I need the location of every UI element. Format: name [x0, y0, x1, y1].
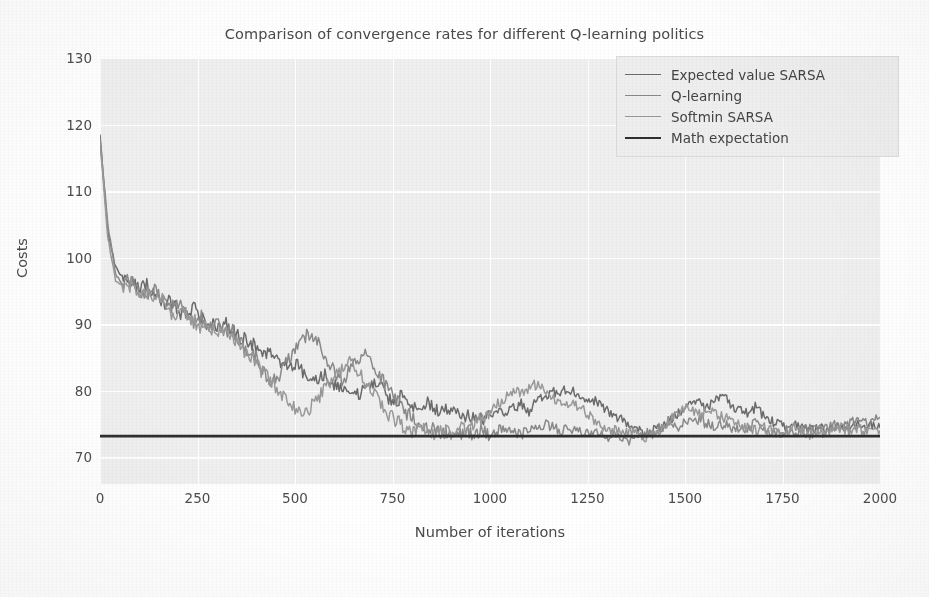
x-tick-label: 500 — [260, 490, 330, 506]
x-tick-label: 1000 — [455, 490, 525, 506]
x-tick-label: 2000 — [845, 490, 915, 506]
legend-line-swatch — [625, 74, 661, 75]
y-tick-label: 130 — [6, 50, 92, 66]
y-tick-label: 80 — [6, 383, 92, 399]
x-tick-label: 0 — [65, 490, 135, 506]
chart-title: Comparison of convergence rates for diff… — [0, 26, 929, 42]
x-tick-label: 750 — [358, 490, 428, 506]
series-line — [100, 138, 880, 445]
legend-item[interactable]: Softmin SARSA — [625, 106, 890, 127]
x-tick-label: 1250 — [553, 490, 623, 506]
legend-item[interactable]: Expected value SARSA — [625, 64, 890, 85]
series-line — [100, 135, 880, 437]
legend-line-swatch — [625, 95, 661, 96]
legend-item-label: Expected value SARSA — [671, 67, 825, 83]
chart-legend: Expected value SARSAQ-learningSoftmin SA… — [616, 56, 899, 157]
series-line — [100, 142, 880, 442]
y-axis-label: Costs — [14, 218, 30, 298]
x-axis-ticks: 025050075010001250150017502000 — [100, 490, 880, 514]
legend-item-label: Softmin SARSA — [671, 109, 773, 125]
x-tick-label: 1500 — [650, 490, 720, 506]
legend-item-label: Q-learning — [671, 88, 742, 104]
x-tick-label: 250 — [163, 490, 233, 506]
legend-item-label: Math expectation — [671, 130, 789, 146]
legend-line-swatch — [625, 137, 661, 139]
x-axis-label: Number of iterations — [100, 524, 880, 540]
legend-line-swatch — [625, 116, 661, 117]
y-tick-label: 110 — [6, 183, 92, 199]
legend-item[interactable]: Q-learning — [625, 85, 890, 106]
y-tick-label: 90 — [6, 316, 92, 332]
legend-item[interactable]: Math expectation — [625, 127, 890, 148]
y-tick-label: 120 — [6, 117, 92, 133]
y-tick-label: 70 — [6, 449, 92, 465]
chart-figure: Comparison of convergence rates for diff… — [0, 0, 929, 597]
x-tick-label: 1750 — [748, 490, 818, 506]
